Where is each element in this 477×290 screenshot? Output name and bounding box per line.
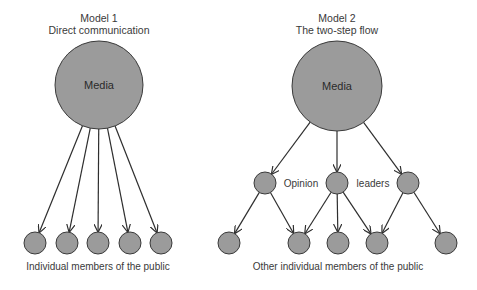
model-2-media-label: Media: [322, 80, 353, 92]
model-2-public-nodes: [218, 232, 457, 254]
opinion-leader-node: [326, 172, 348, 194]
arrow-edge: [98, 129, 99, 232]
public-member-node: [435, 232, 457, 254]
public-member-node: [288, 232, 310, 254]
public-member-node: [366, 232, 388, 254]
arrow-edge: [270, 193, 293, 233]
opinion-leader-node: [254, 172, 276, 194]
model-1-subtitle: Direct communication: [49, 24, 150, 36]
model-1-title: Model 1: [80, 12, 118, 24]
model-2-opinion-leader-nodes: [254, 172, 419, 194]
public-member-node: [24, 232, 46, 254]
model-1-edges: [39, 126, 156, 233]
model-1-caption: Individual members of the public: [26, 261, 169, 272]
model-2-caption: Other individual members of the public: [253, 261, 424, 272]
arrow-edge: [69, 128, 90, 232]
communication-models-diagram: Model 1 Direct communication Media Indiv…: [0, 0, 477, 290]
public-member-node: [119, 232, 141, 254]
arrow-edge: [305, 192, 331, 233]
arrow-edge: [343, 192, 371, 233]
leaders-label: leaders: [357, 178, 390, 189]
arrow-edge: [382, 193, 403, 233]
opinion-label: Opinion: [284, 178, 318, 189]
arrow-edge: [235, 192, 259, 233]
opinion-leader-node: [397, 172, 419, 194]
public-member-node: [87, 232, 109, 254]
arrow-edge: [272, 122, 310, 174]
arrow-edge: [337, 194, 338, 232]
model-2-subtitle: The two-step flow: [296, 24, 379, 36]
arrow-edge: [107, 128, 127, 232]
arrow-edge: [115, 126, 157, 232]
model-1-media-label: Media: [84, 79, 115, 91]
public-member-node: [150, 232, 172, 254]
public-member-node: [218, 232, 240, 254]
model-2: Model 2 The two-step flow Media Opinion …: [218, 12, 457, 272]
arrow-edge: [364, 122, 402, 173]
public-member-node: [327, 232, 349, 254]
model-1-public-nodes: [24, 232, 172, 254]
arrow-edge: [39, 126, 82, 233]
model-1: Model 1 Direct communication Media Indiv…: [24, 12, 172, 272]
public-member-node: [56, 232, 78, 254]
model-2-title: Model 2: [318, 12, 356, 24]
arrow-edge: [414, 192, 440, 233]
